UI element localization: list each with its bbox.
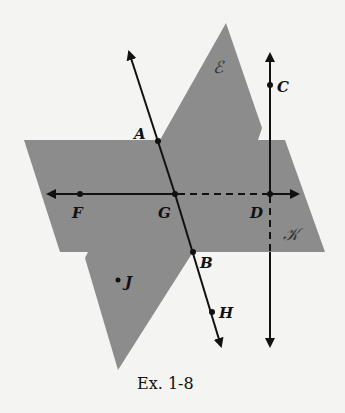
point-g [172, 191, 178, 197]
label-a: A [132, 125, 146, 143]
plane-e-upper [160, 23, 262, 140]
point-j [116, 278, 121, 283]
point-d [267, 191, 273, 197]
label-g: G [158, 204, 171, 222]
point-a [155, 138, 161, 144]
geometry-figure: ℰ 𝒦 A B C D F G H J Ex. 1-8 [0, 0, 345, 413]
label-c: C [277, 78, 289, 96]
label-h: H [218, 304, 234, 322]
plane-e-lower [85, 252, 193, 370]
point-f [77, 191, 83, 197]
point-h [209, 309, 215, 315]
figure-caption: Ex. 1-8 [137, 374, 194, 393]
label-d: D [249, 204, 263, 222]
point-b [190, 249, 196, 255]
label-f: F [71, 204, 84, 222]
point-c [267, 82, 273, 88]
label-b: B [199, 254, 213, 272]
